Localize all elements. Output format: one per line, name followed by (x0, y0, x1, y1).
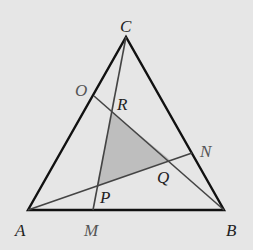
label-n: N (199, 142, 213, 161)
label-q: Q (157, 168, 169, 187)
label-r: R (116, 95, 128, 114)
label-b: B (226, 221, 237, 240)
geometry-diagram: C A B M O R N Q P (0, 0, 253, 250)
label-c: C (120, 17, 132, 36)
label-a: A (14, 221, 26, 240)
label-m: M (83, 221, 99, 240)
label-p: P (99, 188, 110, 207)
diagram-svg: C A B M O R N Q P (0, 0, 253, 250)
label-o: O (75, 81, 87, 100)
